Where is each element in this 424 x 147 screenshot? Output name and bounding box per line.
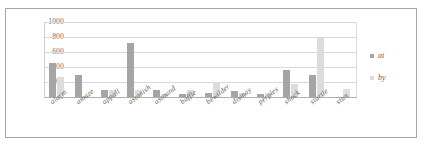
legend-label-at: at	[378, 52, 384, 60]
chart-legend: at by	[370, 49, 416, 93]
legend-swatch-at-icon	[370, 54, 374, 58]
legend-item-at[interactable]: at	[370, 49, 416, 63]
bar-group	[279, 22, 305, 97]
bar-group	[305, 22, 331, 97]
bar-group	[331, 22, 357, 97]
legend-label-by: by	[378, 74, 386, 82]
legend-item-by[interactable]: by	[370, 71, 416, 85]
x-axis-labels: alarmamazeappallastonishastoundbafflebew…	[45, 99, 356, 135]
bar-chart: 02004006008001000 alarmamazeappallastoni…	[6, 9, 418, 137]
chart-figure: 02004006008001000 alarmamazeappallastoni…	[5, 8, 417, 138]
bar-group	[71, 22, 97, 97]
bar-group	[45, 22, 71, 97]
bar-series-container	[45, 22, 356, 97]
bar-at-astonish[interactable]	[127, 43, 134, 97]
bar-group	[227, 22, 253, 97]
bar-group	[175, 22, 201, 97]
legend-swatch-by-icon	[370, 76, 374, 80]
bar-group	[97, 22, 123, 97]
